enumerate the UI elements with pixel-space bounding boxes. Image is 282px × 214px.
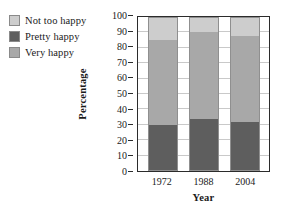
y-tick-label: 80 (117, 42, 127, 52)
happiness-stacked-bar-chart: Not too happy Pretty happy Very happy Pe… (0, 0, 282, 214)
x-axis-ticks: 197219882004 (137, 176, 270, 190)
chart-legend: Not too happy Pretty happy Very happy (9, 13, 86, 59)
y-tick-mark (128, 124, 133, 125)
y-tick-label: 50 (117, 89, 127, 99)
plot-area (137, 16, 270, 172)
y-tick-label: 100 (112, 11, 127, 21)
y-tick-label: 90 (117, 27, 127, 37)
legend-label-very-happy: Very happy (25, 47, 74, 58)
bar-segment-pretty-happy (230, 36, 260, 122)
y-tick-mark (128, 77, 133, 78)
bar-segment-not-too-happy (230, 17, 260, 35)
y-tick-mark (128, 93, 133, 94)
bar-segment-pretty-happy (148, 40, 178, 125)
y-tick-label: 40 (117, 105, 127, 115)
bar-1988 (189, 17, 219, 171)
bar-segment-very-happy (230, 122, 260, 171)
y-tick-mark (128, 62, 133, 63)
legend-item-pretty-happy: Pretty happy (9, 29, 86, 43)
y-tick-mark (128, 46, 133, 47)
bar-segment-pretty-happy (189, 32, 219, 118)
y-tick-mark (128, 155, 133, 156)
y-tick-label: 70 (117, 58, 127, 68)
y-tick-mark (128, 171, 133, 172)
legend-label-not-too-happy: Not too happy (25, 15, 86, 26)
y-tick-label: 30 (117, 120, 127, 130)
y-axis-title: Percentage (77, 68, 88, 119)
legend-swatch-very-happy (9, 47, 20, 58)
bar-segment-very-happy (189, 119, 219, 171)
legend-item-very-happy: Very happy (9, 45, 86, 59)
y-tick-label: 0 (122, 167, 127, 177)
y-axis-ticks: 0102030405060708090100 (100, 16, 133, 172)
x-axis-title: Year (137, 192, 270, 203)
legend-swatch-not-too-happy (9, 15, 20, 26)
x-tick-label: 1988 (188, 176, 218, 190)
legend-item-not-too-happy: Not too happy (9, 13, 86, 27)
bar-segment-not-too-happy (148, 17, 178, 40)
bar-group (138, 17, 269, 171)
y-tick-mark (128, 31, 133, 32)
y-tick-label: 20 (117, 136, 127, 146)
y-tick-mark (128, 109, 133, 110)
bar-1972 (148, 17, 178, 171)
y-tick-mark (128, 140, 133, 141)
legend-swatch-pretty-happy (9, 31, 20, 42)
y-tick-label: 60 (117, 73, 127, 83)
bar-2004 (230, 17, 260, 171)
bar-segment-not-too-happy (189, 17, 219, 32)
legend-label-pretty-happy: Pretty happy (25, 31, 80, 42)
x-tick-label: 2004 (230, 176, 260, 190)
bar-segment-very-happy (148, 125, 178, 171)
x-tick-label: 1972 (147, 176, 177, 190)
y-tick-label: 10 (117, 151, 127, 161)
y-tick-mark (128, 15, 133, 16)
